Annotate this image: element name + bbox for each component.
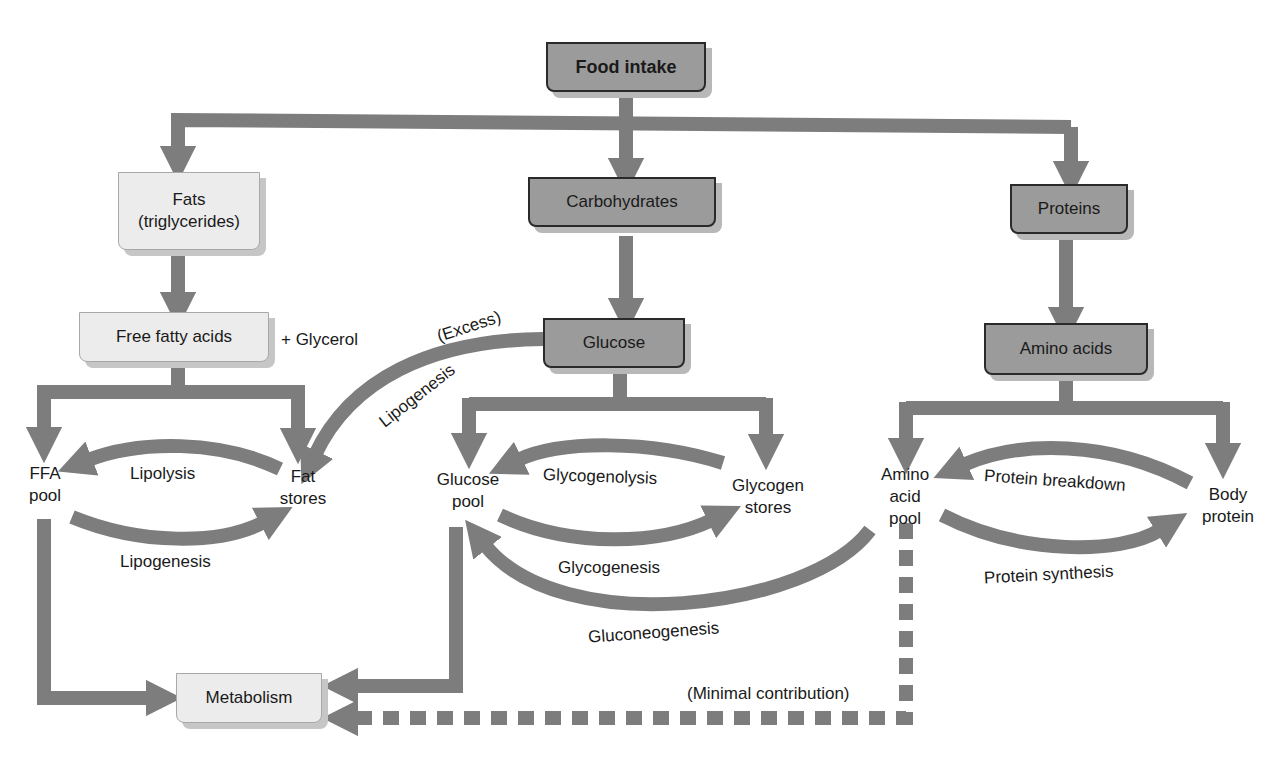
arrow-ffa-to-metabolism [44, 519, 150, 698]
arrow-protein-synthesis [942, 515, 1160, 547]
pool-body-protein-line1: Body [1190, 484, 1266, 506]
pool-amino-line3: pool [872, 508, 938, 530]
pool-fat-stores-line1: Fat [268, 466, 338, 488]
pool-fat-stores: Fat stores [268, 466, 338, 510]
pool-glycogen-line2: stores [718, 497, 818, 519]
pool-glucose: Glucose pool [428, 469, 508, 513]
node-free-fatty-acids: Free fatty acids [79, 312, 269, 362]
node-glucose: Glucose [543, 318, 685, 368]
label-glycogenesis: Glycogenesis [558, 557, 660, 579]
arrow-glucose-to-metabolism [354, 527, 456, 686]
pool-amino-line2: acid [872, 486, 938, 508]
pool-body-protein-line2: protein [1190, 506, 1266, 528]
node-fats: Fats (triglycerides) [118, 172, 260, 250]
arrow-glycogenesis [500, 515, 712, 539]
node-metabolism: Metabolism [176, 673, 322, 723]
node-carbohydrates-label: Carbohydrates [566, 191, 678, 213]
node-metabolism-label: Metabolism [206, 687, 293, 709]
pool-amino-acid: Amino acid pool [872, 464, 938, 530]
arrow-lipogenesis [72, 517, 264, 539]
arrow-layer [0, 0, 1278, 763]
pool-glycogen-line1: Glycogen [718, 475, 818, 497]
arrow-glycogenolysis [518, 445, 723, 463]
node-amino-acids-label: Amino acids [1020, 338, 1113, 360]
node-carbohydrates: Carbohydrates [528, 177, 716, 227]
pool-ffa-line2: pool [22, 485, 68, 507]
node-amino-acids: Amino acids [984, 323, 1148, 375]
node-fats-label-2: (triglycerides) [138, 211, 240, 233]
pool-body-protein: Body protein [1190, 484, 1266, 528]
node-fats-label-1: Fats [172, 189, 205, 211]
node-free-fatty-acids-label: Free fatty acids [116, 326, 232, 348]
pool-ffa: FFA pool [22, 463, 68, 507]
node-glucose-label: Glucose [583, 332, 645, 354]
label-lipolysis: Lipolysis [130, 463, 195, 485]
node-food-intake: Food intake [546, 42, 706, 92]
pool-fat-stores-line2: stores [268, 488, 338, 510]
pool-ffa-line1: FFA [22, 463, 68, 485]
node-food-intake-label: Food intake [575, 56, 676, 78]
pool-glycogen-stores: Glycogen stores [718, 475, 818, 519]
arrow-gluconeogenesis [485, 530, 870, 604]
label-minimal-contribution: (Minimal contribution) [687, 683, 850, 705]
pool-glucose-line1: Glucose [428, 469, 508, 491]
pool-glucose-line2: pool [428, 491, 508, 513]
arrow-ffa-to-pool [44, 385, 298, 431]
label-glycerol: + Glycerol [281, 329, 358, 351]
label-lipogenesis: Lipogenesis [120, 551, 211, 573]
pool-amino-line1: Amino [872, 464, 938, 486]
node-proteins-label: Proteins [1038, 198, 1100, 220]
node-proteins: Proteins [1010, 184, 1128, 234]
label-glycogenolysis: Glycogenolysis [543, 464, 658, 490]
